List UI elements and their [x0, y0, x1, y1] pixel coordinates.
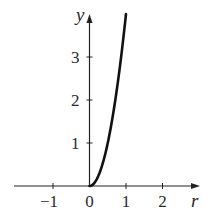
y-axis-arrow-icon — [87, 14, 93, 23]
plot-area: −1012123 r y — [0, 0, 215, 223]
x-axis-label: r — [191, 190, 199, 211]
x-tick-label: −1 — [40, 192, 58, 211]
x-axis-arrow-icon — [191, 183, 200, 189]
axes — [14, 14, 200, 189]
x-tick-label: 0 — [85, 192, 94, 211]
y-axis-label: y — [74, 4, 85, 25]
x-tick-label: 2 — [158, 192, 167, 211]
y-tick-label: 2 — [71, 91, 80, 110]
y-tick-label: 3 — [71, 48, 80, 67]
x-tick-label: 1 — [122, 192, 131, 211]
tick-marks — [53, 57, 163, 189]
y-tick-label: 1 — [71, 134, 80, 153]
data-curve — [90, 14, 127, 186]
